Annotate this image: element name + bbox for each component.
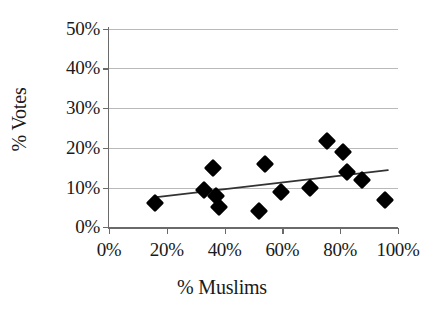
y-tick-mark (103, 188, 109, 189)
gridline-y (109, 68, 398, 69)
x-tick-label: 80% (323, 240, 357, 259)
y-tick-label: 0% (42, 217, 100, 236)
x-tick-label: 100% (376, 240, 419, 259)
x-tick-labels: 0%20%40%60%80%100% (0, 240, 444, 264)
y-tick-mark (103, 148, 109, 149)
x-tick-label: 20% (150, 240, 184, 259)
gridline-y (109, 108, 398, 109)
y-tick-label: 20% (42, 138, 100, 157)
x-tick-mark (282, 228, 283, 234)
y-tick-label: 10% (42, 178, 100, 197)
gridline-y (109, 148, 398, 149)
y-axis-title: % Votes (8, 55, 31, 185)
y-tick-label: 40% (42, 58, 100, 77)
x-tick-mark (109, 228, 110, 234)
x-axis-line (108, 227, 398, 228)
x-tick-mark (398, 228, 399, 234)
x-tick-mark (340, 228, 341, 234)
y-tick-labels: 0%10%20%30%40%50% (42, 0, 100, 314)
y-tick-mark (103, 108, 109, 109)
x-tick-label: 40% (208, 240, 242, 259)
y-tick-mark (103, 29, 109, 30)
x-tick-mark (167, 228, 168, 234)
gridline-y (109, 188, 398, 189)
y-tick-mark (103, 68, 109, 69)
y-tick-label: 30% (42, 98, 100, 117)
x-tick-mark (225, 228, 226, 234)
x-tick-label: 0% (97, 240, 122, 259)
x-tick-label: 60% (265, 240, 299, 259)
x-axis-title: % Muslims (0, 276, 444, 299)
y-axis-line (108, 27, 109, 229)
y-tick-label: 50% (42, 19, 100, 38)
scatter-chart-figure: 0%10%20%30%40%50% 0%20%40%60%80%100% % M… (0, 0, 444, 314)
gridline-y (109, 29, 398, 30)
